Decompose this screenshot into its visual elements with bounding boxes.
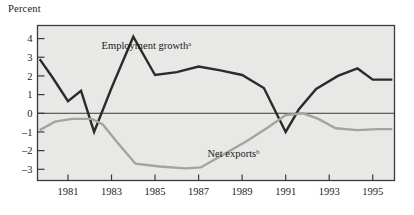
- line-chart: 43210–1–2–3 1981198319851987198919911993…: [0, 0, 414, 215]
- y-tick-label: –2: [21, 145, 33, 156]
- y-tick-label: 3: [27, 52, 32, 63]
- x-tick-label: 1989: [232, 186, 253, 197]
- x-tick-label: 1987: [188, 186, 209, 197]
- y-tick-label: 0: [27, 108, 32, 119]
- x-tick-label: 1981: [57, 186, 78, 197]
- x-tick-label: 1991: [275, 186, 296, 197]
- plot-area-wrapper: 43210–1–2–3 1981198319851987198919911993…: [0, 0, 414, 215]
- series-label: Net exportsb: [207, 148, 259, 159]
- x-tick-label: 1985: [145, 186, 166, 197]
- y-tick-label: –3: [21, 164, 33, 175]
- y-tick-label: 4: [27, 33, 33, 44]
- x-tick-label: 1993: [319, 186, 340, 197]
- y-tick-label: 2: [27, 71, 32, 82]
- x-tick-label: 1983: [101, 186, 122, 197]
- y-tick-label: 1: [27, 89, 32, 100]
- x-tick-label: 1995: [362, 186, 383, 197]
- y-tick-label: –1: [21, 127, 33, 138]
- series-label: Employment growtha: [102, 40, 192, 51]
- figure-container: Percent 43210–1–2–3 19811983198519871989…: [0, 0, 414, 215]
